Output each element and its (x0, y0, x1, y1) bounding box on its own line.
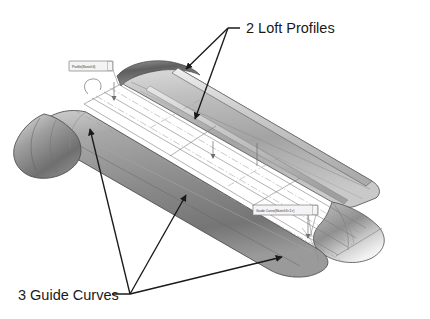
guide-curves-label: 3 Guide Curves (18, 287, 119, 303)
loft-profiles-arrow-1 (186, 28, 228, 69)
cad-loft-figure: Profile(Sketch3) Guide Curve(Sketch5<1>)… (0, 0, 430, 319)
loft-profiles-label: 2 Loft Profiles (246, 20, 335, 36)
guide-curves-arrow-2 (130, 195, 186, 294)
guide-curves-arrow-3 (130, 257, 282, 294)
lofted-solid-body (14, 61, 385, 277)
callout-guide-label: Guide Curve(Sketch5<1>) (256, 209, 294, 213)
callout-profile-label: Profile(Sketch3) (72, 65, 95, 69)
callout-profile[interactable]: Profile(Sketch3) (69, 61, 118, 84)
sketch-arc-handle (85, 79, 101, 94)
